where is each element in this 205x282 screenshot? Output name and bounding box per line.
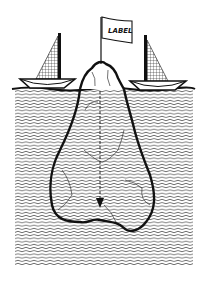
flag-label: LABEL xyxy=(108,27,132,35)
flag: LABEL xyxy=(101,17,132,64)
right-sailboat xyxy=(130,35,186,90)
iceberg-tip xyxy=(80,62,124,89)
left-sailboat xyxy=(20,33,75,88)
iceberg-illustration: LABEL xyxy=(0,0,205,282)
